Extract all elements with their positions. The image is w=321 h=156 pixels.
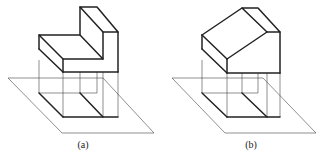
figure-a-label: (a) — [77, 139, 88, 150]
figure-b-label: (b) — [245, 139, 257, 150]
figure-a — [8, 7, 154, 133]
footprint-b — [202, 93, 280, 117]
solid-a — [39, 7, 118, 72]
footprint-a — [39, 93, 118, 117]
plane-b — [172, 78, 316, 133]
plane-a — [8, 78, 154, 133]
projection-diagram — [0, 0, 321, 156]
solid-b — [202, 8, 280, 73]
projection-lines-b — [202, 60, 280, 117]
projection-lines-a — [39, 60, 118, 117]
figure-b — [172, 8, 316, 133]
